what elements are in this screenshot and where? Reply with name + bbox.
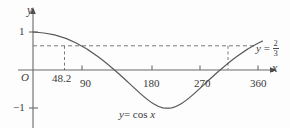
x-tick-label-180: 180 xyxy=(143,78,160,89)
x-tick-label-90: 90 xyxy=(80,78,91,89)
origin-label: O xyxy=(21,72,29,83)
cosine-graph-figure: y x O 1 −1 48.2 90 180 270 360 y= cos x … xyxy=(0,0,290,128)
line-label-two-thirds: y = 23 xyxy=(256,40,279,59)
line-label-y: y xyxy=(256,42,261,54)
x-tick-label-270: 270 xyxy=(194,78,211,89)
curve-label-cos-eq: = cos xyxy=(124,108,148,120)
x-tick-label-48-2: 48.2 xyxy=(52,73,71,84)
line-label-eq: = xyxy=(264,42,270,54)
fraction-two-thirds: 23 xyxy=(273,39,279,58)
x-tick-label-360: 360 xyxy=(250,78,267,89)
y-axis-label: y xyxy=(27,4,32,16)
x-axis-label: x xyxy=(272,62,277,74)
y-tick-label-minus-1: −1 xyxy=(13,102,25,113)
curve-label-cos: y= cos x xyxy=(119,109,155,120)
y-tick-label-1: 1 xyxy=(19,26,25,37)
curve-label-cos-x: x xyxy=(150,108,155,120)
fraction-numerator: 2 xyxy=(273,39,279,48)
fraction-denominator: 3 xyxy=(273,48,279,58)
